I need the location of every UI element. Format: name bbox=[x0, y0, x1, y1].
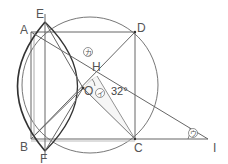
label-h: H bbox=[92, 60, 101, 74]
geometry-diagram: A E D B F C H O I 32° カ イ ウ bbox=[0, 0, 228, 164]
arc-eof-right bbox=[45, 22, 78, 151]
label-a: A bbox=[20, 23, 28, 37]
svg-text:イ: イ bbox=[97, 90, 104, 98]
angle-32-label: 32° bbox=[111, 85, 128, 97]
label-f: F bbox=[40, 152, 47, 164]
mark-u-icon: ウ bbox=[189, 129, 198, 139]
label-i: I bbox=[213, 141, 216, 155]
point-c bbox=[134, 138, 136, 140]
mark-i-icon: イ bbox=[96, 89, 105, 99]
point-o bbox=[82, 87, 85, 90]
label-b: B bbox=[20, 140, 28, 154]
label-e: E bbox=[36, 7, 44, 21]
label-o: O bbox=[84, 84, 93, 98]
label-d: D bbox=[137, 21, 146, 35]
svg-text:ウ: ウ bbox=[190, 130, 197, 138]
svg-text:カ: カ bbox=[85, 49, 92, 57]
label-c: C bbox=[134, 141, 143, 155]
point-d bbox=[134, 31, 136, 33]
mark-ka-icon: カ bbox=[84, 48, 93, 58]
